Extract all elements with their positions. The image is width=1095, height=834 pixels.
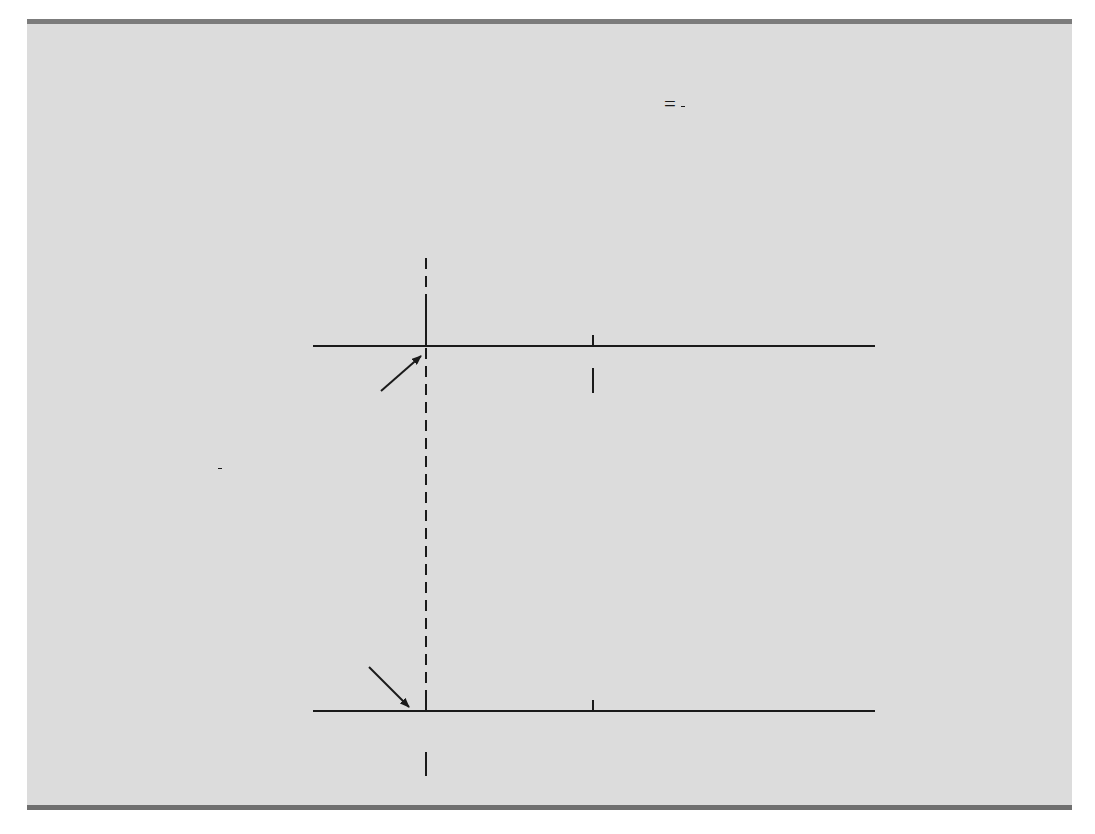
std-error-formula: = bbox=[664, 92, 685, 124]
bottom-title bbox=[204, 458, 222, 480]
bottom-title-line2 bbox=[218, 454, 222, 480]
pvalue-arrow bbox=[369, 667, 409, 707]
bottom-distribution bbox=[313, 667, 875, 776]
z-formula-fraction bbox=[218, 468, 222, 469]
observed-arrow bbox=[381, 356, 421, 391]
top-distribution bbox=[313, 300, 875, 393]
distribution-figure bbox=[0, 0, 1095, 834]
